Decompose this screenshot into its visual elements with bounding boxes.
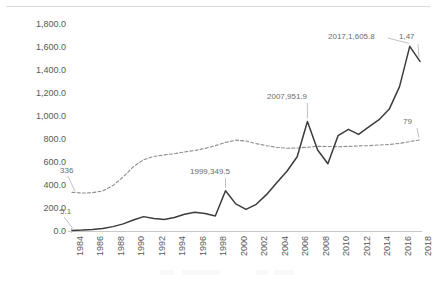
solid-2017-label: 2017,1,605.8 — [328, 33, 375, 41]
leader-line — [418, 44, 419, 57]
series-layer — [0, 0, 435, 286]
leader-line — [417, 128, 419, 138]
solid-1999-label: 1999,349.5 — [190, 168, 230, 176]
solid-series-line — [72, 46, 420, 230]
leader-line — [68, 176, 75, 191]
solid-start-label: 5.1 — [60, 208, 71, 216]
annotation-leader-lines — [64, 38, 419, 228]
legend-ghost — [160, 268, 330, 276]
dashed-start-label: 336 — [60, 167, 73, 175]
leader-line — [64, 217, 73, 228]
solid-2007-label: 2007,951.9 — [267, 93, 307, 101]
line-chart: 1,800.01,600.01,400.01,200.01,000.0800.0… — [0, 0, 435, 286]
dashed-series-line — [72, 140, 420, 193]
dashed-end-label: 79 — [403, 118, 435, 126]
solid-2018-label: 1,47 — [399, 33, 435, 41]
